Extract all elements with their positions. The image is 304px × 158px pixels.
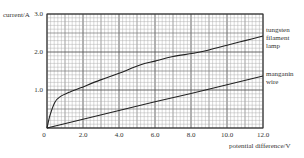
y-tick-label: 2.0 bbox=[23, 48, 43, 56]
x-tick-label: 4.0 bbox=[107, 131, 131, 139]
y-tick-label: 3.0 bbox=[23, 10, 43, 18]
x-tick-label: 2.0 bbox=[71, 131, 95, 139]
x-axis-label: potential difference/V bbox=[229, 142, 290, 150]
iv-characteristics-chart: current/A potential difference/V 1.02.03… bbox=[0, 0, 304, 158]
y-tick-label: 1.0 bbox=[23, 86, 43, 94]
manganin-wire-label: manganinwire bbox=[266, 70, 294, 86]
tungsten-lamp-label: tungstenfilamentlamp bbox=[266, 26, 290, 50]
x-tick-label: 6.0 bbox=[143, 131, 167, 139]
x-tick-label: 10.0 bbox=[215, 131, 239, 139]
x-tick-label: 8.0 bbox=[179, 131, 203, 139]
x-tick-label: 0 bbox=[32, 131, 56, 139]
x-tick-label: 12.0 bbox=[251, 131, 275, 139]
